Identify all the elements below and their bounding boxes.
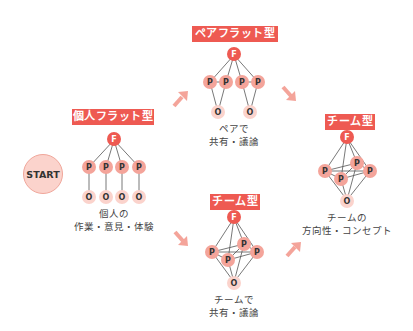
svg-text:P: P — [338, 175, 344, 184]
team-bottom-caption: チームで 共有・議論 — [194, 293, 274, 319]
team-right-caption: チームの 方向性・コンセプト — [297, 211, 397, 237]
svg-text:O: O — [119, 193, 126, 202]
svg-text:F: F — [111, 135, 116, 144]
caption-line: 作業・意見・体験 — [64, 220, 164, 233]
caption-line: 方向性・コンセプト — [297, 224, 397, 237]
caption-line: チームの — [297, 211, 397, 224]
caption-line: チームで — [194, 293, 274, 306]
diagram-graphics: F P P P P O O O O F P P P P O O F P — [0, 0, 413, 331]
svg-text:P: P — [103, 163, 109, 172]
svg-text:O: O — [344, 197, 351, 206]
pair-flat-graph — [210, 55, 258, 112]
svg-text:P: P — [254, 248, 260, 257]
svg-text:P: P — [209, 248, 215, 257]
svg-text:P: P — [367, 167, 373, 176]
svg-text:O: O — [231, 279, 238, 288]
svg-text:O: O — [136, 193, 143, 202]
team-right-graph — [325, 138, 370, 200]
individual-flat-caption: 個人の 作業・意見・体験 — [64, 207, 164, 233]
caption-line: 個人の — [64, 207, 164, 220]
svg-text:F: F — [231, 213, 236, 222]
svg-text:F: F — [231, 50, 236, 59]
caption-line: ペアで — [194, 122, 274, 135]
svg-text:P: P — [322, 167, 328, 176]
svg-text:O: O — [215, 108, 222, 117]
svg-text:O: O — [103, 193, 110, 202]
svg-text:P: P — [86, 163, 92, 172]
svg-text:P: P — [239, 78, 245, 87]
svg-text:F: F — [344, 133, 349, 142]
svg-text:P: P — [255, 78, 261, 87]
svg-text:P: P — [241, 240, 247, 249]
svg-text:P: P — [119, 163, 125, 172]
svg-text:P: P — [354, 159, 360, 168]
svg-text:P: P — [136, 163, 142, 172]
pair-flat-caption: ペアで 共有・議論 — [194, 122, 274, 148]
individual-flat-graph — [89, 140, 139, 196]
svg-text:P: P — [207, 78, 213, 87]
svg-text:P: P — [223, 78, 229, 87]
arrow-icon — [174, 87, 301, 256]
svg-text:O: O — [247, 108, 254, 117]
team-bottom-graph — [212, 218, 257, 282]
svg-text:O: O — [86, 193, 93, 202]
svg-text:P: P — [225, 256, 231, 265]
caption-line: 共有・議論 — [194, 135, 274, 148]
caption-line: 共有・議論 — [194, 306, 274, 319]
